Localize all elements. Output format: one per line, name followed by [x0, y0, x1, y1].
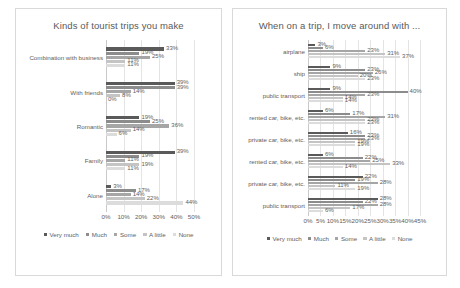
legend-swatch-icon [114, 233, 118, 237]
legend-item[interactable]: Much [308, 235, 329, 242]
legend-item[interactable]: Very much [44, 231, 79, 238]
bar-value-label: 36% [171, 122, 183, 128]
bar-value-label: 14% [133, 126, 145, 132]
legend-item[interactable]: Some [335, 235, 357, 242]
legend-label: Some [341, 235, 357, 242]
bar [106, 64, 125, 67]
legend-item[interactable]: Much [86, 231, 107, 238]
category-label: Family [85, 157, 103, 164]
bar [106, 189, 136, 192]
gridline [194, 40, 195, 212]
bar [106, 197, 145, 200]
x-axis-tick: 0% [102, 213, 111, 220]
legend-label: A little [369, 235, 386, 242]
category-label: private car, bike, etc. [248, 180, 305, 187]
bar-value-label: 19% [141, 152, 153, 158]
bar-value-label: 6% [325, 207, 334, 213]
bar [308, 122, 365, 124]
x-axis-tick: 35% [389, 217, 401, 224]
bar-value-label: 14% [133, 88, 145, 94]
legend-swatch-icon [143, 233, 147, 237]
bar [308, 78, 365, 80]
x-axis-tick: 0% [304, 217, 313, 224]
legend-label: None [398, 235, 413, 242]
legend-label: Very much [50, 231, 79, 238]
bar-value-label: 33% [392, 160, 404, 166]
bar [106, 133, 117, 136]
legend-swatch-icon [392, 237, 396, 241]
legend-swatch-icon [335, 237, 339, 241]
bar [106, 47, 164, 50]
x-axis-right: 0%5%10%15%20%25%30%35%40%45% [308, 216, 420, 228]
bar-value-label: 19% [357, 185, 369, 191]
bar-value-label: 3% [113, 183, 122, 189]
bar-value-label: 40% [410, 88, 422, 94]
legend-label: Much [92, 231, 107, 238]
legend-label: Much [314, 235, 329, 242]
legend-label: Some [120, 231, 136, 238]
bar [106, 60, 125, 63]
bar-value-label: 23% [367, 75, 379, 81]
category-label: public transport [263, 202, 305, 209]
x-axis-left: 0%10%20%30%40%50% [106, 212, 194, 224]
bar-value-label: 0% [108, 96, 117, 102]
gridline [383, 40, 384, 216]
bar [106, 151, 175, 154]
plot-area-right: airplane3%6%23%31%37%ship9%23%26%20%23%p… [308, 40, 420, 216]
legend-item[interactable]: Some [114, 231, 136, 238]
bar-value-label: 11% [127, 156, 139, 162]
legend-left: Very muchMuchSomeA littleNone [16, 231, 221, 238]
chart-panel-right: When on a trip, I move around with ... a… [232, 8, 447, 276]
bar [106, 185, 111, 188]
plot-area-left: Combination with business33%19%25%11%11%… [106, 40, 194, 212]
bar-value-label: 39% [177, 148, 189, 154]
category-label: Combination with business [29, 54, 103, 61]
chart-title-right: When on a trip, I move around with ... [233, 20, 446, 31]
bar [106, 120, 150, 123]
x-axis-tick: 40% [170, 213, 182, 220]
bar-value-label: 22% [147, 195, 159, 201]
legend-swatch-icon [86, 233, 90, 237]
legend-swatch-icon [173, 233, 177, 237]
bar [106, 82, 175, 85]
bar-value-label: 28% [380, 201, 392, 207]
bar-value-label: 14% [345, 163, 357, 169]
chart-panel-left: Kinds of tourist trips you make Combinat… [15, 8, 222, 276]
bar-value-label: 25% [152, 118, 164, 124]
category-label: rented car, bike, etc. [249, 114, 305, 121]
category-label: With friends [70, 88, 103, 95]
legend-right: Very muchMuchSomeA littleNone [233, 235, 446, 242]
bar [308, 210, 323, 212]
category-label: public transport [263, 92, 305, 99]
gridline [408, 40, 409, 216]
bar-value-label: 44% [185, 199, 197, 205]
bar [308, 144, 355, 146]
legend-item[interactable]: A little [363, 235, 386, 242]
legend-item[interactable]: Very much [267, 235, 302, 242]
category-label: private car, bike, etc. [248, 136, 305, 143]
x-axis-tick: 10% [327, 217, 339, 224]
gridline [395, 40, 396, 216]
legend-item[interactable]: A little [143, 231, 166, 238]
bar [308, 100, 343, 102]
bar [308, 56, 400, 58]
x-axis-tick: 25% [364, 217, 376, 224]
legend-item[interactable]: None [392, 235, 413, 242]
bar-value-label: 14% [345, 97, 357, 103]
category-label: airplane [283, 48, 305, 55]
bar-value-label: 14% [133, 191, 145, 197]
category-label: Romantic [77, 123, 103, 130]
x-axis-tick: 45% [414, 217, 426, 224]
bar-value-label: 6% [119, 130, 128, 136]
legend-swatch-icon [267, 237, 271, 241]
x-axis-tick: 15% [339, 217, 351, 224]
legend-item[interactable]: None [173, 231, 194, 238]
bar-value-label: 17% [352, 204, 364, 210]
bar-value-label: 28% [380, 179, 392, 185]
legend-swatch-icon [308, 237, 312, 241]
category-label: rented car, bike, etc. [249, 158, 305, 165]
bar-value-label: 39% [177, 84, 189, 90]
bar [106, 167, 125, 170]
gridline [420, 40, 421, 216]
legend-label: A little [149, 231, 166, 238]
